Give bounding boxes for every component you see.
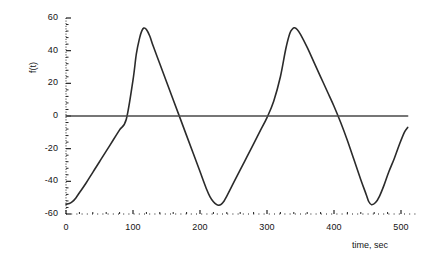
y-tick-label: 60 (0, 12, 58, 22)
series-layer (66, 28, 408, 205)
x-tick-label: 0 (36, 222, 96, 232)
y-tick-label: 40 (0, 45, 58, 55)
y-tick-label: -40 (0, 175, 58, 185)
y-tick-label: 20 (0, 77, 58, 87)
y-tick-label: -60 (0, 208, 58, 218)
x-tick-label: 100 (103, 222, 163, 232)
x-tick-label: 400 (304, 222, 364, 232)
y-tick-label: -20 (0, 143, 58, 153)
x-axis-title: time, sec (352, 240, 388, 250)
y-axis-title: f(t) (28, 62, 38, 73)
x-tick-label: 500 (371, 222, 431, 232)
y-tick-label: 0 (0, 110, 58, 120)
x-tick-label: 200 (170, 222, 230, 232)
x-tick-label: 300 (237, 222, 297, 232)
chart-figure: -60-40-2002040600100200300400500 f(t) ti… (0, 0, 439, 264)
